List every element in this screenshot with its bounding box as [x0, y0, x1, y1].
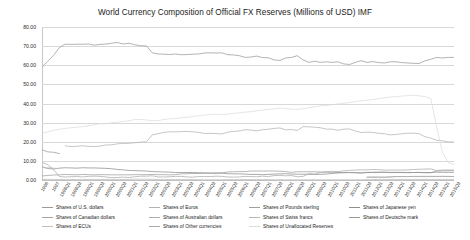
legend-label: Shares of Australian dollars — [163, 215, 223, 220]
legend-label: Shares of Other currencies — [163, 224, 221, 229]
series-line — [42, 42, 454, 67]
legend-label: Shares of ECUs — [56, 224, 91, 229]
legend-color-swatch — [349, 217, 360, 218]
legend-item[interactable]: Shares of Unallocated Reserves — [249, 224, 333, 229]
legend-item[interactable]: Shares of ECUs — [42, 224, 91, 229]
legend-label: Shares of U.S. dollars — [56, 205, 104, 210]
legend-item[interactable]: Shares of Japanese yen — [349, 205, 416, 210]
legend-label: Shares of Unallocated Reserves — [263, 224, 333, 229]
x-axis-tick-label: 2015Q3 — [457, 167, 470, 184]
y-axis-tick-label: 10.00 — [0, 158, 36, 164]
legend-color-swatch — [149, 217, 160, 218]
y-axis-tick-label: 50.00 — [0, 81, 36, 87]
legend-label: Shares of Swiss francs — [263, 215, 313, 220]
legend-color-swatch — [249, 217, 260, 218]
legend-item[interactable]: Shares of Euros — [149, 205, 198, 210]
y-axis-tick-label: 60.00 — [0, 62, 36, 68]
legend-item[interactable]: Shares of U.S. dollars — [42, 205, 104, 210]
legend-item[interactable]: Shares of Swiss francs — [249, 215, 313, 220]
series-line — [65, 127, 454, 147]
y-axis-tick-label: 0.00 — [0, 177, 36, 183]
y-axis-tick-label: 70.00 — [0, 43, 36, 49]
legend-item[interactable]: Shares of Deutsche mark — [349, 215, 418, 220]
legend-color-swatch — [42, 226, 53, 227]
y-axis-tick-label: 80.00 — [0, 24, 36, 30]
legend-label: Shares of Deutsche mark — [363, 215, 418, 220]
legend-color-swatch — [349, 207, 360, 208]
chart-legend: Shares of U.S. dollarsShares of Canadian… — [42, 205, 462, 237]
legend-color-swatch — [249, 207, 260, 208]
legend-color-swatch — [42, 217, 53, 218]
x-axis: 199619971998Q11998Q31999Q11999Q32000Q120… — [42, 181, 454, 203]
y-axis-tick-label: 20.00 — [0, 139, 36, 145]
y-axis-tick-label: 40.00 — [0, 101, 36, 107]
legend-item[interactable]: Shares of Pounds sterling — [249, 205, 319, 210]
legend-label: Shares of Canadian dollars — [56, 215, 115, 220]
legend-label: Shares of Euros — [163, 205, 198, 210]
chart-title: World Currency Composition of Official F… — [0, 8, 470, 17]
legend-label: Shares of Japanese yen — [363, 205, 416, 210]
legend-label: Shares of Pounds sterling — [263, 205, 319, 210]
legend-item[interactable]: Shares of Other currencies — [149, 224, 221, 229]
series-line — [42, 150, 59, 154]
legend-item[interactable]: Shares of Australian dollars — [149, 215, 223, 220]
legend-color-swatch — [42, 207, 53, 208]
legend-color-swatch — [249, 226, 260, 227]
y-axis-tick-label: 30.00 — [0, 120, 36, 126]
plot-area — [42, 27, 454, 180]
legend-item[interactable]: Shares of Canadian dollars — [42, 215, 115, 220]
chart-container: World Currency Composition of Official F… — [0, 0, 470, 240]
series-lines — [42, 27, 454, 180]
legend-color-swatch — [149, 207, 160, 208]
legend-color-swatch — [149, 226, 160, 227]
